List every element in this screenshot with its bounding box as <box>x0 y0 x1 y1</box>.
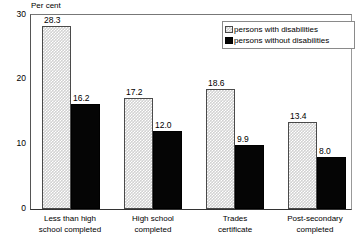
legend: persons with disabilities persons withou… <box>222 21 355 49</box>
x-axis-category-label: Less than high school completed <box>23 214 117 235</box>
bar-value-label: 16.2 <box>73 94 90 103</box>
legend-label: persons without disabilities <box>234 36 329 45</box>
bar-with-disabilities: 13.4 <box>288 122 317 209</box>
bar-with-disabilities: 18.6 <box>206 89 235 209</box>
bar-with-disabilities: 28.3 <box>42 26 71 209</box>
bar-without-disabilities: 9.9 <box>235 145 264 209</box>
x-axis-category-label: Post-secondary completed <box>268 214 362 235</box>
y-axis-title: Per cent <box>31 1 61 11</box>
bar-without-disabilities: 12.0 <box>153 131 182 209</box>
y-axis-tick-20: 20 <box>0 74 26 83</box>
bar-value-label: 8.0 <box>319 147 331 156</box>
bar-without-disabilities: 8.0 <box>317 157 346 209</box>
legend-swatch-icon <box>225 37 233 44</box>
legend-label: persons with disabilities <box>234 25 318 34</box>
x-axis-category-label: High school completed <box>108 214 198 235</box>
bar-group: 28.3 16.2 <box>42 15 100 209</box>
legend-item-with-disabilities: persons with disabilities <box>225 24 352 35</box>
bar-with-disabilities: 17.2 <box>124 98 153 209</box>
bar-without-disabilities: 16.2 <box>71 104 100 209</box>
bar-value-label: 28.3 <box>44 16 61 25</box>
bar-value-label: 18.6 <box>208 79 225 88</box>
y-axis-tick-10: 10 <box>0 139 26 148</box>
y-axis-tick-30: 30 <box>0 10 26 19</box>
bar-chart: Per cent 30 20 10 0 28.3 16.2 17.2 12.0 <box>0 0 363 242</box>
bar-value-label: 17.2 <box>126 88 143 97</box>
legend-swatch-icon <box>225 26 233 33</box>
legend-item-without-disabilities: persons without disabilities <box>225 35 352 46</box>
x-axis-category-label: Trades certificate <box>190 214 280 235</box>
bar-value-label: 9.9 <box>237 135 249 144</box>
bar-value-label: 12.0 <box>155 121 172 130</box>
bar-value-label: 13.4 <box>290 112 307 121</box>
y-axis-tick-0: 0 <box>0 204 26 213</box>
bar-group: 17.2 12.0 <box>124 15 182 209</box>
